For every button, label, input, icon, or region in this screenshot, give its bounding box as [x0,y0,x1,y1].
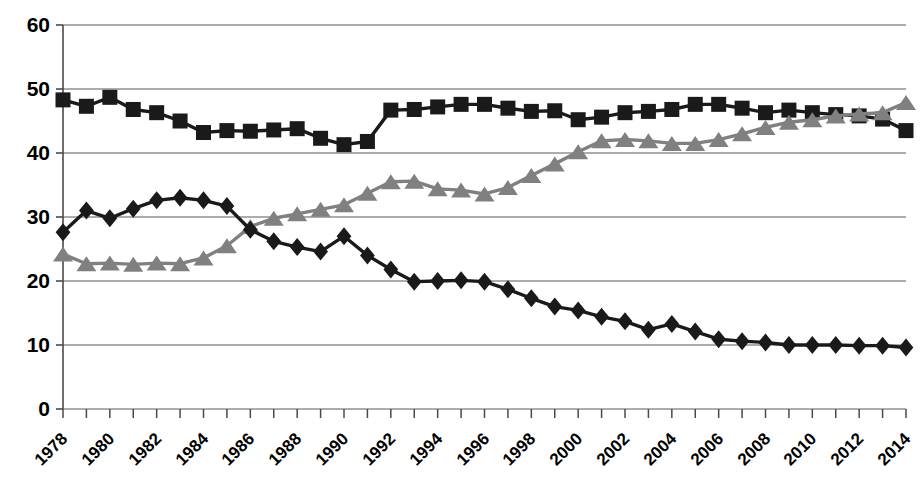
series-squares-marker-1980 [102,90,117,105]
series-diamonds-marker-1987 [266,232,281,250]
series-squares-marker-2005 [688,97,703,112]
series-triangles-marker-2000 [568,144,588,159]
series-squares-marker-1999 [547,103,562,118]
series-squares-marker-2014 [899,123,914,138]
series-squares-marker-1979 [79,99,94,114]
series-diamonds-marker-2008 [758,333,773,351]
y-axis-label-10: 10 [4,334,50,355]
series-squares-marker-2007 [735,101,750,116]
series-squares-marker-1984 [196,125,211,140]
series-squares-marker-1981 [126,102,141,117]
y-tick-marks [56,25,63,409]
series-diamonds-marker-1982 [149,191,164,209]
series-squares-marker-2004 [664,102,679,117]
chart-container: 0102030405060197819801982198419861988199… [0,0,921,487]
series-squares-marker-1988 [290,121,305,136]
series-squares-marker-2003 [641,104,656,119]
series-diamonds-marker-2005 [688,323,703,341]
series-squares-marker-1990 [337,137,352,152]
series-triangles-marker-2014 [896,95,916,110]
y-axis-label-50: 50 [4,78,50,99]
series-squares-marker-1982 [149,105,164,120]
series-diamonds-marker-2001 [594,308,609,326]
series-squares-marker-1992 [383,103,398,118]
series-squares-marker-1978 [56,92,71,107]
series-squares-marker-1991 [360,134,375,149]
series-squares-marker-1998 [524,104,539,119]
series-diamonds-marker-1980 [102,209,117,227]
series-diamonds-marker-1983 [173,189,188,207]
series-diamonds-marker-1999 [547,298,562,316]
series-diamonds-marker-2000 [571,301,586,319]
series-squares-marker-2008 [758,105,773,120]
series-diamonds-marker-2007 [735,332,750,350]
series-diamonds-marker-1993 [407,273,422,291]
series-squares-marker-1983 [173,114,188,129]
series-diamonds-marker-1981 [126,200,141,218]
series-diamonds-marker-2003 [641,321,656,339]
series-squares-marker-1993 [407,102,422,117]
series-diamonds-marker-2002 [618,312,633,330]
series-squares-marker-2000 [571,112,586,127]
y-axis-label-60: 60 [4,14,50,35]
series-diamonds-marker-2012 [852,337,867,355]
y-axis-label-20: 20 [4,270,50,291]
series-squares-marker-1986 [243,124,258,139]
y-axis-label-30: 30 [4,206,50,227]
y-axis-label-0: 0 [4,398,50,419]
series-squares-marker-2006 [711,97,726,112]
series-diamonds [56,189,914,357]
series-squares-marker-1989 [313,131,328,146]
series-squares-marker-2001 [594,110,609,125]
line-chart-plot [0,0,921,487]
series-squares-marker-1994 [430,99,445,114]
series-diamonds-marker-2009 [782,336,797,354]
series-diamonds-marker-1995 [454,271,469,289]
series-diamonds-marker-2013 [875,337,890,355]
series-diamonds-marker-1988 [290,238,305,256]
series-diamonds-marker-2011 [828,336,843,354]
x-tick-marks [63,409,906,418]
gridlines [63,25,906,409]
series-triangles-marker-1978 [53,247,73,262]
y-axis-label-40: 40 [4,142,50,163]
series-squares-marker-2002 [618,105,633,120]
series-squares-marker-1997 [500,101,515,116]
series-diamonds-marker-2004 [664,315,679,333]
series-squares-marker-1987 [266,122,281,137]
series-diamonds-marker-1997 [501,280,516,298]
series-diamonds-marker-1998 [524,289,539,307]
series-diamonds-marker-1989 [313,243,328,261]
series-diamonds-marker-1984 [196,191,211,209]
series-diamonds-marker-2014 [899,339,914,357]
series-diamonds-marker-1992 [383,260,398,278]
series-squares-marker-1995 [454,97,469,112]
series-diamonds-marker-2010 [805,336,820,354]
series-squares-marker-1996 [477,97,492,112]
series-diamonds-marker-1996 [477,273,492,291]
series-diamonds-marker-1994 [430,272,445,290]
series-squares-marker-1985 [219,123,234,138]
